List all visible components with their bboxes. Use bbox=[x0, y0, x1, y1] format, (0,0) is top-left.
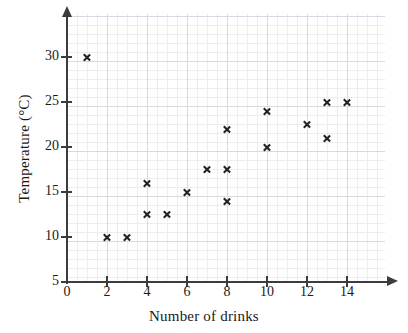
data-point bbox=[303, 120, 312, 129]
y-tick-label-15: 15 bbox=[45, 184, 59, 198]
data-point bbox=[323, 98, 332, 107]
data-point bbox=[163, 210, 172, 219]
y-axis-arrow-icon bbox=[62, 6, 72, 17]
y-axis-title: Temperature (°C) bbox=[16, 39, 33, 259]
data-point bbox=[263, 107, 272, 116]
y-tick-label-30: 30 bbox=[45, 49, 59, 63]
x-axis-line bbox=[67, 281, 389, 283]
data-point bbox=[183, 188, 192, 197]
data-point bbox=[123, 233, 132, 242]
x-tick-label-8: 8 bbox=[215, 285, 239, 299]
y-tick-5 bbox=[61, 281, 72, 283]
plot-area bbox=[67, 14, 385, 282]
x-tick-label-6: 6 bbox=[175, 285, 199, 299]
y-tick-label-10: 10 bbox=[45, 229, 59, 243]
data-point bbox=[83, 53, 92, 62]
scatter-chart: 51015202530 02468101214 Number of drinks… bbox=[0, 0, 408, 333]
y-tick-15 bbox=[61, 191, 72, 193]
data-point bbox=[143, 179, 152, 188]
major-gridlines bbox=[67, 14, 385, 282]
data-point bbox=[143, 210, 152, 219]
data-point bbox=[323, 134, 332, 143]
data-point bbox=[203, 165, 212, 174]
data-point bbox=[263, 143, 272, 152]
data-point bbox=[223, 125, 232, 134]
y-tick-label-25: 25 bbox=[45, 94, 59, 108]
y-tick-30 bbox=[61, 56, 72, 58]
data-point bbox=[343, 98, 352, 107]
x-axis-arrow-icon bbox=[387, 276, 398, 286]
x-tick-label-0: 0 bbox=[55, 285, 79, 299]
x-tick-label-2: 2 bbox=[95, 285, 119, 299]
data-point bbox=[103, 233, 112, 242]
x-tick-label-14: 14 bbox=[335, 285, 359, 299]
y-tick-10 bbox=[61, 236, 72, 238]
x-tick-label-4: 4 bbox=[135, 285, 159, 299]
x-tick-label-12: 12 bbox=[295, 285, 319, 299]
data-point bbox=[223, 197, 232, 206]
y-tick-label-20: 20 bbox=[45, 139, 59, 153]
data-point bbox=[223, 165, 232, 174]
x-axis-title: Number of drinks bbox=[0, 308, 408, 325]
y-tick-20 bbox=[61, 146, 72, 148]
y-tick-25 bbox=[61, 101, 72, 103]
x-tick-label-10: 10 bbox=[255, 285, 279, 299]
